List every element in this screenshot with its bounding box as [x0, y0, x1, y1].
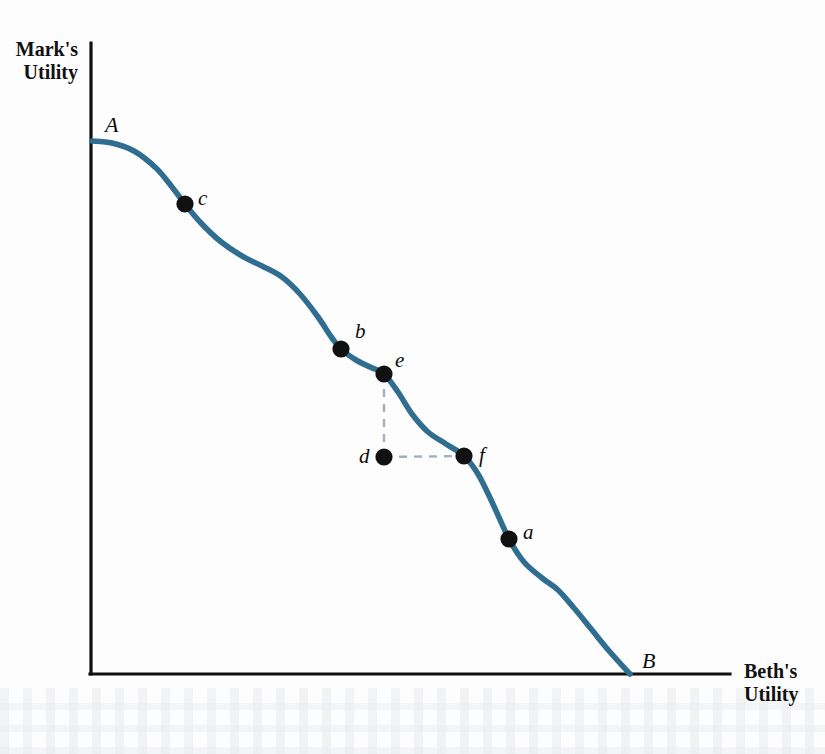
point-label-B: B	[642, 650, 655, 671]
x-axis-title-line1: Beth's	[744, 660, 825, 683]
data-point-marker-c	[176, 195, 193, 212]
point-label-b: b	[355, 321, 366, 342]
point-label-e: e	[395, 350, 404, 371]
data-point-marker-a	[500, 530, 517, 547]
frontier-plot	[0, 0, 825, 754]
point-label-d: d	[359, 446, 370, 467]
point-label-A: A	[105, 114, 118, 135]
point-label-f: f	[479, 445, 485, 466]
x-axis-title-line2: Utility	[744, 683, 825, 706]
point-label-c: c	[198, 188, 207, 209]
utility-possibilities-frontier-curve	[92, 141, 630, 674]
point-label-a: a	[523, 522, 534, 543]
guide-line-d-to-f	[384, 456, 464, 457]
y-axis-title-line1: Mark's	[0, 38, 78, 61]
y-axis-title: Mark's Utility	[0, 38, 78, 84]
utility-frontier-figure: Mark's Utility Beth's Utility AcbedfaB	[0, 0, 825, 754]
data-point-marker-d	[375, 448, 392, 465]
data-point-marker-e	[375, 365, 392, 382]
data-point-marker-b	[332, 340, 349, 357]
x-axis-title: Beth's Utility	[744, 660, 825, 706]
y-axis-title-line2: Utility	[0, 61, 78, 84]
data-point-marker-f	[455, 447, 472, 464]
